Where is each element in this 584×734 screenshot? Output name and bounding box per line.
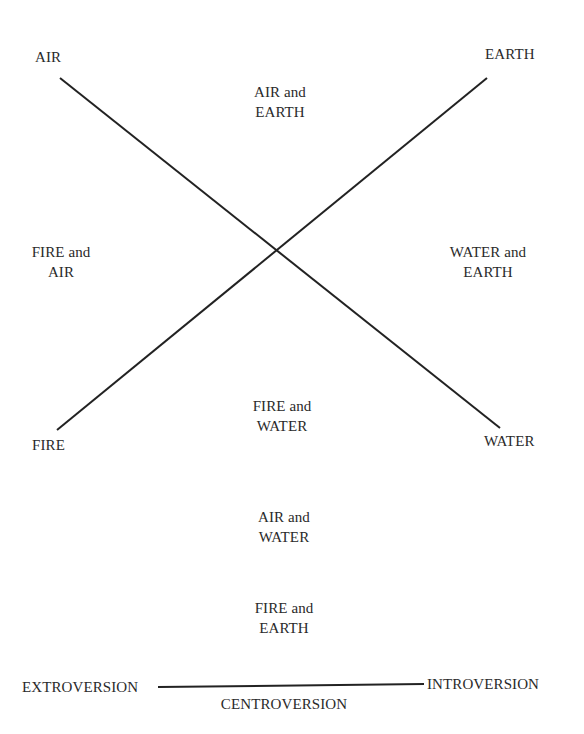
pair-label-air-water: AIR and WATER bbox=[258, 507, 310, 547]
corner-label-fire: FIRE bbox=[32, 435, 65, 455]
extroversion-introversion-axis bbox=[158, 684, 424, 687]
axis-label-extroversion: EXTROVERSION bbox=[22, 677, 138, 697]
quadrant-label-line1: WATER and bbox=[450, 242, 526, 262]
pair-label-fire-earth: FIRE and EARTH bbox=[255, 598, 314, 638]
air-water-diagonal bbox=[60, 78, 500, 428]
fire-earth-diagonal bbox=[57, 78, 487, 430]
quadrant-label-water-earth: WATER and EARTH bbox=[450, 242, 526, 282]
quadrant-label-line1: FIRE and bbox=[32, 242, 91, 262]
axis-label-centroversion: CENTROVERSION bbox=[221, 694, 347, 714]
pair-label-line2: WATER bbox=[258, 527, 310, 547]
quadrant-label-fire-water: FIRE and WATER bbox=[253, 396, 312, 436]
corner-label-earth: EARTH bbox=[485, 44, 535, 64]
axis-label-introversion: INTROVERSION bbox=[427, 674, 539, 694]
quadrant-label-fire-air: FIRE and AIR bbox=[32, 242, 91, 282]
quadrant-label-line2: WATER bbox=[253, 416, 312, 436]
quadrant-label-air-earth: AIR and EARTH bbox=[254, 82, 306, 122]
pair-label-line1: FIRE and bbox=[255, 598, 314, 618]
corner-label-air: AIR bbox=[35, 47, 61, 67]
pair-label-line2: EARTH bbox=[255, 618, 314, 638]
pair-label-line1: AIR and bbox=[258, 507, 310, 527]
quadrant-label-line2: EARTH bbox=[254, 102, 306, 122]
quadrant-label-line2: EARTH bbox=[450, 262, 526, 282]
quadrant-label-line1: AIR and bbox=[254, 82, 306, 102]
quadrant-label-line1: FIRE and bbox=[253, 396, 312, 416]
quadrant-label-line2: AIR bbox=[32, 262, 91, 282]
corner-label-water: WATER bbox=[484, 431, 535, 451]
